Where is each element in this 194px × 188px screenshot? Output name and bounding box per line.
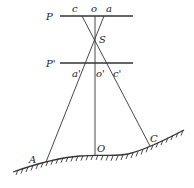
label-o-prime: o' <box>96 68 105 79</box>
label-c-prime: c' <box>113 68 121 79</box>
label-P-prime: P' <box>45 58 55 69</box>
ray-c-C <box>82 16 150 146</box>
label-C: C <box>150 133 158 144</box>
label-A: A <box>28 154 36 165</box>
label-O: O <box>97 143 105 154</box>
label-P: P <box>45 11 53 22</box>
central-projection-diagram: P c o a S P' a' o' c' A O C <box>0 0 194 188</box>
label-a: a <box>106 3 112 14</box>
label-a-prime: a' <box>72 68 81 79</box>
label-S: S <box>99 34 106 45</box>
label-o: o <box>91 3 97 14</box>
label-c: c <box>72 3 78 14</box>
